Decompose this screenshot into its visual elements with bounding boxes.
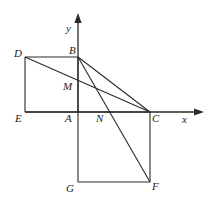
segment-BF bbox=[78, 57, 150, 182]
x-axis-label: x bbox=[182, 114, 187, 125]
point-label-D: D bbox=[14, 48, 22, 59]
geometry-figure: D B E A M N C G F y x bbox=[0, 0, 215, 208]
geometry-canvas bbox=[0, 0, 215, 208]
point-label-B: B bbox=[69, 45, 76, 56]
point-label-A: A bbox=[65, 113, 72, 124]
y-axis-arrowhead-icon bbox=[74, 13, 81, 23]
segment-DC bbox=[25, 57, 150, 112]
point-label-F: F bbox=[152, 181, 159, 192]
point-label-E: E bbox=[15, 113, 22, 124]
point-label-C: C bbox=[152, 113, 159, 124]
y-axis-label: y bbox=[66, 23, 71, 34]
point-label-N: N bbox=[96, 113, 103, 124]
x-axis-arrowhead-icon bbox=[194, 108, 204, 115]
point-label-G: G bbox=[66, 183, 74, 194]
point-label-M: M bbox=[63, 81, 72, 92]
